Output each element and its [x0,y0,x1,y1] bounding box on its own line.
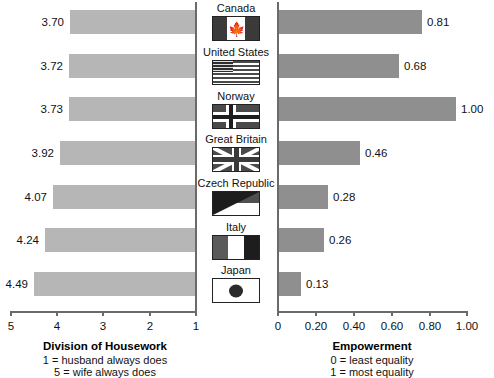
country-label-norway: Norway [196,90,276,103]
bar-empowerment-united-states [278,54,399,78]
bar-housework-united-states [69,54,195,78]
empowerment-ticklabel-0-20: 0.20 [296,320,336,332]
bar-housework-great-britain [60,141,195,165]
housework-tick-5 [10,311,12,316]
empowerment-ticklabel-0-80: 0.80 [410,320,450,332]
country-canada: Canada 🍁 [196,2,276,41]
country-label-japan: Japan [196,264,276,277]
housework-ticklabel-2: 2 [130,320,170,332]
empowerment-tick-0-40 [353,311,355,316]
housework-ticklabel-3: 3 [83,320,123,332]
country-japan: Japan [196,264,276,303]
paired-bar-chart: 3.70 3.72 3.73 3.92 4.07 4.24 4.49 5 4 3… [0,0,494,378]
country-united-states: United States [196,46,276,85]
housework-tick-4 [56,311,58,316]
empowerment-axis-horizontal [277,311,467,313]
empowerment-tick-0-20 [315,311,317,316]
country-czech-republic: Czech Republic [196,177,276,216]
value-housework-norway: 3.73 [19,97,63,121]
value-empowerment-japan: 0.13 [306,272,328,296]
italy-flag-band-2 [228,236,244,259]
housework-axis-note-2: 5 = wife always does [25,366,185,378]
empowerment-tick-1-00 [466,311,468,316]
norway-flag-cross-dark-h [213,115,259,119]
us-flag-stars [213,61,233,72]
empowerment-ticklabel-0-60: 0.60 [372,320,412,332]
bar-empowerment-italy [278,228,324,252]
value-housework-united-states: 3.72 [19,54,63,78]
bar-housework-italy [45,228,195,252]
value-housework-great-britain: 3.92 [10,141,54,165]
housework-ticklabel-1: 1 [176,320,216,332]
country-label-canada: Canada [196,2,276,15]
us-flag-canton [213,61,233,72]
country-great-britain: Great Britain [196,133,276,172]
canada-flag: 🍁 [212,16,260,41]
japan-flag [212,278,260,303]
country-norway: Norway [196,90,276,129]
housework-ticklabel-5: 5 [0,320,31,332]
maple-leaf-icon: 🍁 [228,22,245,36]
housework-axis-note-1: 1 = husband always does [25,354,185,366]
italy-flag [212,235,260,260]
empowerment-ticklabel-0-40: 0.40 [334,320,374,332]
bar-empowerment-norway [278,97,456,121]
bar-housework-czech-republic [53,185,195,209]
country-label-italy: Italy [196,221,276,234]
bar-housework-canada [70,10,195,34]
cz-flag-wedge [213,192,259,215]
value-empowerment-canada: 0.81 [427,10,449,34]
housework-tick-2 [149,311,151,316]
bar-housework-japan [34,272,195,296]
empowerment-axis-title: Empowerment [292,340,452,352]
empowerment-tick-0-80 [429,311,431,316]
empowerment-axis-note-2: 1 = most equality [292,366,452,378]
value-empowerment-italy: 0.26 [329,228,351,252]
great-britain-flag [212,147,260,172]
empowerment-axis-vertical [277,2,279,312]
bar-empowerment-great-britain [278,141,360,165]
italy-flag-band-3 [244,236,259,259]
empowerment-tick-0-60 [391,311,393,316]
value-empowerment-czech-republic: 0.28 [333,185,355,209]
value-housework-canada: 3.70 [20,10,64,34]
value-housework-czech-republic: 4.07 [3,185,47,209]
housework-axis-title: Division of Housework [25,340,185,352]
value-empowerment-norway: 1.00 [461,97,483,121]
bar-empowerment-canada [278,10,422,34]
bar-empowerment-czech-republic [278,185,328,209]
housework-ticklabel-4: 4 [37,320,77,332]
canada-flag-band-left [213,17,227,40]
country-label-united-states: United States [196,46,276,59]
united-states-flag [212,60,260,85]
bar-housework-norway [69,97,195,121]
country-legend-panel: Canada 🍁 United States Norway [196,0,276,318]
value-housework-italy: 4.24 [0,228,39,252]
country-label-czech-republic: Czech Republic [196,177,276,190]
empowerment-ticklabel-0: 0 [258,320,298,332]
value-empowerment-great-britain: 0.46 [365,141,387,165]
bar-empowerment-japan [278,272,301,296]
gb-flag-cross-red-h [213,157,259,162]
empowerment-tick-0 [277,311,279,316]
empowerment-ticklabel-1-00: 1.00 [447,320,487,332]
norway-flag [212,104,260,129]
housework-tick-3 [102,311,104,316]
value-empowerment-united-states: 0.68 [404,54,426,78]
japan-flag-disc [229,284,243,297]
czech-republic-flag [212,191,260,216]
empowerment-axis-note-1: 0 = least equality [292,354,452,366]
country-label-great-britain: Great Britain [196,133,276,146]
italy-flag-band-1 [213,236,228,259]
canada-flag-band-right [245,17,259,40]
country-italy: Italy [196,221,276,260]
value-housework-japan: 4.49 [0,272,28,296]
